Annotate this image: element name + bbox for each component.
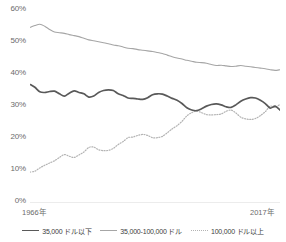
chart-legend: 35,000 ドル以下 35,000-100,000 ドル 100,000 ドル… [0, 226, 286, 236]
y-axis-label-0: 0% [0, 196, 26, 205]
legend-swatch-solid-light [100, 227, 117, 235]
legend-label-35000-100000: 35,000-100,000 ドル [120, 226, 182, 236]
legend-swatch-dotted [191, 227, 208, 235]
series-line-over-100000 [30, 104, 280, 172]
legend-label-over-100000: 100,000 ドル以上 [211, 226, 264, 236]
series-line-under-35000 [30, 84, 280, 110]
y-axis-label-30: 30% [0, 100, 26, 109]
legend-item-under-35000[interactable]: 35,000 ドル以下 [22, 226, 91, 236]
legend-label-under-35000: 35,000 ドル以下 [42, 226, 91, 236]
y-axis-label-60: 60% [0, 4, 26, 13]
series-canvas [30, 8, 280, 203]
x-axis-label-end: 2017年 [250, 206, 274, 217]
series-line-35000-100000 [30, 24, 280, 70]
y-axis-label-10: 10% [0, 164, 26, 173]
y-axis-label-40: 40% [0, 68, 26, 77]
x-axis-label-start: 1966年 [22, 206, 46, 217]
y-axis-label-50: 50% [0, 36, 26, 45]
plot-area [30, 8, 280, 203]
income-distribution-line-chart: 60% 50% 40% 30% 20% 10% 0% 1966年 2017年 3… [0, 0, 286, 242]
legend-swatch-solid-dark [22, 227, 39, 235]
legend-item-over-100000[interactable]: 100,000 ドル以上 [191, 226, 264, 236]
y-axis-label-20: 20% [0, 132, 26, 141]
legend-item-35000-100000[interactable]: 35,000-100,000 ドル [100, 226, 182, 236]
